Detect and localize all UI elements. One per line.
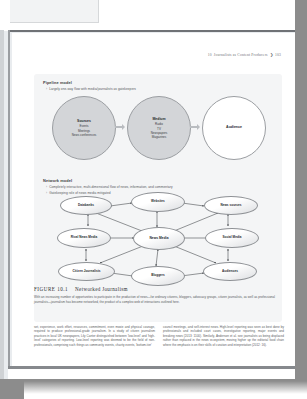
- pipeline-node-medium: Medium Radio TV Newspapers Magazines: [127, 96, 191, 160]
- running-head-title: Journalists as Content Producers: [214, 53, 268, 57]
- network-node-databanks-label: Databanks: [78, 204, 94, 207]
- pipeline-arrow-1: [115, 124, 125, 130]
- network-node-news-sources-label: News sources: [220, 204, 241, 207]
- pipeline-arrow-2: [190, 124, 200, 130]
- network-node-rival-news-media: Rival News Media: [57, 228, 111, 248]
- viewer-tab[interactable]: [10, 0, 99, 23]
- running-head: 10Journalists as Content Producers❯103: [208, 53, 281, 57]
- figure-caption: FIGURE 10.1Networked Journalism With an …: [34, 286, 282, 304]
- pipeline-node-audience-title: Audience: [226, 125, 242, 129]
- network-node-bloggers-label: Bloggers: [151, 274, 165, 277]
- figure-caption-body: With an increasing number of opportuniti…: [34, 295, 275, 304]
- figure-caption-title: Networked Journalism: [75, 286, 128, 292]
- network-node-audiences: Audiences: [203, 262, 257, 281]
- network-node-news-sources: News sources: [204, 196, 258, 215]
- network-node-rival-news-media-label: Rival News Media: [71, 236, 97, 239]
- pipeline-model-diagram: Pipeline model Largely one-way flow with…: [34, 74, 282, 162]
- pipeline-node-sources: Sources Events Meetings News conferences: [52, 96, 116, 160]
- figure-panel: Pipeline model Largely one-way flow with…: [34, 74, 282, 322]
- network-node-bloggers: Bloggers: [131, 266, 185, 286]
- figure-caption-heading: FIGURE 10.1Networked Journalism: [34, 286, 282, 292]
- running-head-chapter: 10: [208, 53, 212, 57]
- viewer-left-rule: [8, 30, 10, 379]
- pipeline-node-audience: Audience: [202, 96, 266, 160]
- figure-caption-label: FIGURE 10.1: [34, 286, 68, 292]
- viewer-top-rule: [8, 30, 295, 32]
- network-model-diagram: Network model Completely interactive, mu…: [34, 178, 282, 290]
- pipeline-node-medium-title: Medium: [152, 117, 165, 121]
- pipeline-bullet-0: Largely one-way flow with media/journali…: [46, 87, 136, 91]
- body-column-left: set, experience, work effort, resources,…: [34, 325, 155, 389]
- viewer-left-gutter: [0, 30, 4, 379]
- body-text-columns: set, experience, work effort, resources,…: [34, 325, 284, 389]
- page-bottom-fade: [24, 381, 307, 399]
- body-column-right: council meetings, and self-interest news…: [163, 325, 284, 389]
- network-node-websites: Websites: [131, 192, 185, 212]
- chevron-right-icon: ❯: [270, 53, 273, 57]
- network-node-news-media: News Media: [133, 227, 185, 250]
- page-number: 103: [275, 53, 281, 57]
- pipeline-heading: Pipeline model: [43, 80, 72, 85]
- network-node-databanks: Databanks: [60, 196, 112, 215]
- network-node-audiences-label: Audiences: [222, 270, 238, 273]
- network-node-websites-label: Websites: [151, 200, 165, 203]
- network-node-citizen-journalists: Citizen Journalists: [58, 262, 115, 281]
- pipeline-node-medium-line-3: Magazines: [152, 135, 167, 139]
- page-sheet: 10Journalists as Content Producers❯103 P…: [12, 33, 295, 366]
- pipeline-node-sources-line-2: News conferences: [72, 133, 97, 137]
- network-node-social-media: Social Media: [205, 228, 259, 248]
- pipeline-node-sources-title: Sources: [77, 119, 91, 123]
- network-node-citizen-journalists-label: Citizen Journalists: [72, 270, 100, 273]
- network-node-social-media-label: Social Media: [222, 236, 241, 239]
- network-node-news-media-label: News Media: [149, 237, 168, 240]
